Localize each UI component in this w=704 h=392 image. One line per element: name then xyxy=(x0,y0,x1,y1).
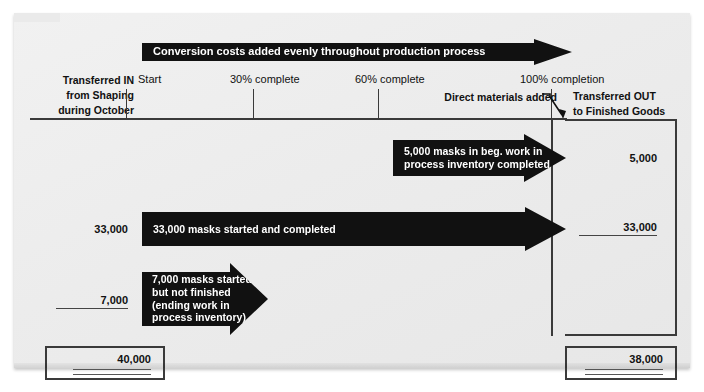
process-flow-exhibit: Conversion costs added evenly throughout… xyxy=(14,13,690,368)
scan-artifact xyxy=(14,13,60,22)
transferred-in-header: Transferred IN from Shaping during Octob… xyxy=(36,73,134,118)
in-value-ending-wip: 7,000 xyxy=(56,294,128,309)
flow-arrow-beginning-wip: 5,000 masks in beg. work in process inve… xyxy=(393,134,566,182)
scale-label-30: 30% complete xyxy=(230,73,300,85)
flow-label-ending-wip: 7,000 masks started but not finished (en… xyxy=(152,273,252,324)
direct-materials-label: Direct materials added xyxy=(397,91,557,103)
total-value-transferred-out: 38,000 xyxy=(629,353,663,365)
out-value-started-completed: 33,000 xyxy=(579,221,657,236)
total-value-transferred-in: 40,000 xyxy=(117,353,151,365)
flow-arrow-started-completed: 33,000 masks started and completed xyxy=(142,207,566,251)
scale-label-start: Start xyxy=(138,73,161,85)
scale-label-60: 60% complete xyxy=(355,73,425,85)
tick-30 xyxy=(253,89,254,119)
tick-start xyxy=(126,89,127,119)
flow-label-beginning-wip: 5,000 masks in beg. work in process inve… xyxy=(404,145,550,171)
total-double-rule-out xyxy=(585,369,663,375)
flow-arrow-ending-wip: 7,000 masks started but not finished (en… xyxy=(142,263,268,335)
total-box-transferred-in: 40,000 xyxy=(45,346,165,380)
conversion-costs-label: Conversion costs added evenly throughout… xyxy=(153,45,486,58)
scale-label-100: 100% completion xyxy=(520,73,604,85)
total-box-transferred-out: 38,000 xyxy=(565,346,677,380)
total-double-rule-in xyxy=(73,369,151,375)
flow-label-started-completed: 33,000 masks started and completed xyxy=(153,223,336,236)
out-value-beginning-wip: 5,000 xyxy=(579,152,657,164)
transferred-out-header: Transferred OUT to Finished Goods xyxy=(573,89,693,119)
scale-baseline-rule xyxy=(30,118,567,120)
tick-60 xyxy=(378,89,379,119)
in-value-started-completed: 33,000 xyxy=(56,223,128,235)
conversion-costs-banner-arrow: Conversion costs added evenly throughout… xyxy=(142,39,572,65)
